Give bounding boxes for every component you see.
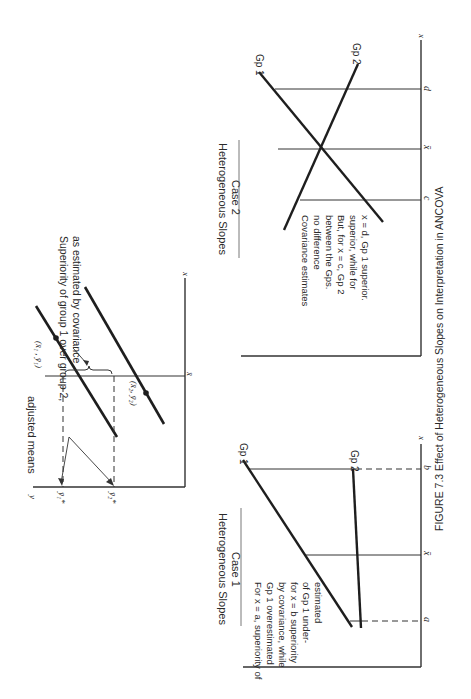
case2-note-line: Covariance estimates <box>300 215 311 307</box>
case1-tick-xbar: x̄ <box>422 550 433 556</box>
panel-case2: Heterogeneous Slopes Case 2 x c x̄ d Gp … <box>217 33 433 356</box>
case2-tick-d: d <box>422 86 433 92</box>
figure-caption: FIGURE 7.3 Effect of Heterogeneous Slope… <box>433 186 445 531</box>
case1-note-line: of Gp 1 under- <box>301 582 312 643</box>
figure-canvas: y x x̄ adjusted means ȳ₁* ȳ₂* (x̄₁ , ȳ₁)… <box>0 0 471 699</box>
case2-gp1-label: Gp 1 <box>254 54 265 76</box>
y1-adjusted-label: ȳ₁* <box>57 491 67 504</box>
case1-note-line: for x = b superiority <box>289 582 300 663</box>
case2-gp2-label: Gp 2 <box>351 43 362 65</box>
case2-title-line1: Heterogeneous Slopes <box>217 143 229 255</box>
superiority-brace <box>65 366 112 374</box>
case2-note: Covariance estimates no difference betwe… <box>300 215 371 307</box>
superiority-note-line1: Superiority of group 1 over group 2, <box>58 236 70 401</box>
case1-note-line: estimated <box>313 582 324 623</box>
panel-case1: Heterogeneous Slopes Case 1 x a x̄ b Gp … <box>217 435 433 680</box>
case2-title-line2: Case 2 <box>230 180 242 215</box>
case2-note-line: But, for x = c, Gp 2 <box>336 215 347 294</box>
case2-note-line: x = d, Gp 1 superior. <box>360 215 371 301</box>
case1-gp2-line <box>353 469 361 628</box>
case1-note: For x = a, superiority of Gp 1 overestim… <box>253 582 324 680</box>
case1-note-line: by covariance, while <box>277 582 288 668</box>
case2-tick-c: c <box>422 196 433 201</box>
adjusted-means-label: adjusted means <box>26 396 38 474</box>
xbar-label: x̄ <box>185 371 195 377</box>
superiority-note-line2: as estimated by covariance <box>71 236 83 363</box>
group1-mean-point <box>53 335 59 341</box>
case1-note-line: For x = a, superiority of <box>253 582 264 680</box>
case1-title-line2: Case 1 <box>230 552 242 587</box>
adjusted-mean-arrow-2 <box>69 437 112 483</box>
y2-adjusted-label: ȳ₂* <box>108 491 118 504</box>
case2-tick-xbar: x̄ <box>422 144 433 150</box>
group1-mean-label: (x̄₁ , ȳ₁) <box>34 341 44 368</box>
x-axis-label: x <box>181 271 191 276</box>
group2-mean-label: (x̄₂, ȳ₂) <box>129 381 139 406</box>
case2-note-line: between the Gps. <box>324 215 335 289</box>
case2-note-line: superior, while for <box>348 215 359 289</box>
case1-tick-a: a <box>422 617 433 622</box>
y-axis-label: y <box>28 494 38 499</box>
case1-x-axis-label: x <box>417 435 427 440</box>
case2-x-axis-label: x <box>417 33 427 38</box>
case1-note-line: Gp 1 overestimated <box>265 582 276 665</box>
group2-mean-point <box>143 390 149 396</box>
arrow-head-icon <box>106 478 114 486</box>
case1-tick-b: b <box>422 465 433 470</box>
panel-adjusted-means: y x x̄ adjusted means ȳ₁* ȳ₂* (x̄₁ , ȳ₁)… <box>26 236 195 504</box>
case2-note-line: no difference <box>312 215 323 270</box>
case1-title-line1: Heterogeneous Slopes <box>217 513 229 625</box>
arrow-head-icon <box>58 478 64 486</box>
case1-gp1-label: Gp 1 <box>238 443 249 465</box>
adjusted-mean-arrow-1 <box>61 437 69 483</box>
case1-gp2-label: Gp 2 <box>349 450 360 472</box>
